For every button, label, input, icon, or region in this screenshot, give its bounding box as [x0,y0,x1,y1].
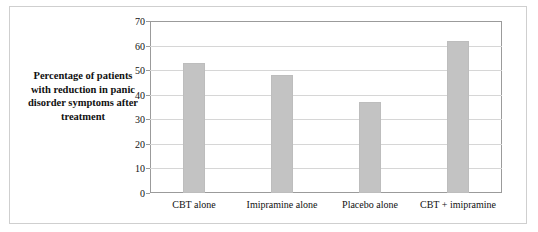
y-tick-label: 50 [135,65,145,76]
bar [271,75,293,193]
bar [447,41,469,193]
y-tick-label: 60 [135,40,145,51]
y-tick-mark [146,21,150,22]
y-tick-mark [146,70,150,71]
y-tick-mark [146,168,150,169]
bar [183,63,205,193]
y-tick-label: 20 [135,138,145,149]
y-tick-label: 10 [135,163,145,174]
bar [359,102,381,193]
y-tick-mark [146,119,150,120]
y-tick-mark [146,95,150,96]
plot-area: 010203040506070 CBT aloneImipramine alon… [150,21,502,193]
y-tick-mark [146,46,150,47]
x-tick-label: CBT + imipramine [420,199,496,210]
y-tick-label: 30 [135,114,145,125]
y-tick-mark [146,144,150,145]
y-tick-label: 70 [135,16,145,27]
chart-figure: Percentage of patients with reduction in… [9,6,527,224]
y-tick-label: 40 [135,89,145,100]
y-axis-label: Percentage of patients with reduction in… [24,69,142,123]
y-tick-mark [146,193,150,194]
y-tick-label: 0 [140,188,145,199]
x-tick-label: Imipramine alone [247,199,318,210]
x-tick-label: Placebo alone [342,199,398,210]
x-tick-label: CBT alone [172,199,215,210]
